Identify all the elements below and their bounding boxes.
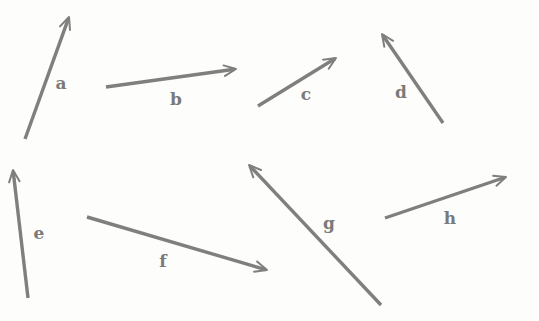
vector-c: c (258, 58, 336, 106)
vector-diagram-svg: a b c d e f g (0, 0, 539, 321)
vector-f: f (87, 217, 267, 272)
vector-a-label: a (55, 73, 66, 93)
vector-g-label: g (323, 213, 335, 233)
vector-f-shaft (87, 217, 266, 270)
vector-b-label: b (170, 89, 182, 109)
vector-c-shaft (258, 59, 335, 106)
vector-h-label: h (444, 208, 456, 228)
vector-diagram: a b c d e f g (0, 0, 539, 321)
vector-e: e (9, 170, 44, 298)
vector-h: h (385, 176, 506, 228)
vector-c-label: c (301, 84, 311, 104)
vector-d-label: d (395, 82, 407, 102)
vector-a: a (25, 17, 70, 139)
vector-d-shaft (383, 35, 443, 123)
vector-b: b (106, 65, 236, 109)
vector-g-shaft (250, 166, 381, 305)
vector-g: g (249, 165, 381, 305)
vector-e-shaft (13, 172, 28, 299)
vector-d: d (382, 34, 443, 123)
vector-f-label: f (159, 251, 168, 271)
vector-e-label: e (34, 223, 45, 243)
vector-b-shaft (106, 69, 235, 87)
